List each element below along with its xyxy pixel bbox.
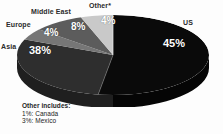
slice-value-europe: 4% [44,28,58,38]
chart-footnote: Other includes: 1%: Canada 3%: Mexico [22,102,70,125]
slice-label-other: Other* [89,2,111,10]
slice-value-other: 4% [101,16,115,26]
footnote-row-mexico: 3%: Mexico [22,117,70,125]
footnote-row-canada: 1%: Canada [22,110,70,118]
slice-label-asia: Asia [1,43,16,51]
slice-label-middle-east: Middle East [31,8,71,16]
slice-label-us: US [183,19,193,27]
slice-value-asia: 38% [29,45,51,55]
footnote-title: Other includes: [22,102,70,110]
slice-label-europe: Europe [6,21,31,29]
slice-value-us: 45% [163,38,185,48]
slice-value-middle-east: 8% [71,22,85,32]
pie-slice-us-upper[interactable] [113,15,209,55]
pie-chart-figure: US Other* Middle East Europe Asia 45% 38… [0,0,223,134]
